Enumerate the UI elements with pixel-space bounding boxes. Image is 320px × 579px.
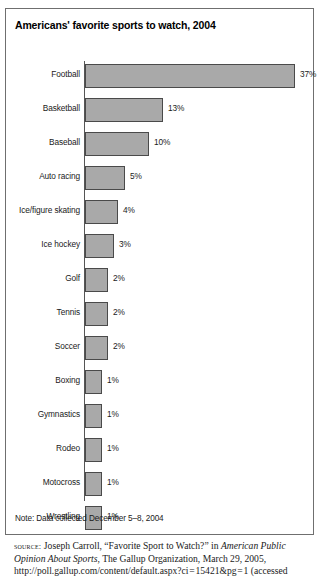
bar-row: Baseball 10%: [6, 129, 313, 160]
bar-row: Ice/figure skating 4%: [6, 197, 313, 228]
bar-rect: [85, 98, 163, 122]
bar-row: Golf 2%: [6, 265, 313, 296]
source-citation: source: Joseph Carroll, “Favorite Sport …: [14, 540, 310, 578]
bar-value-label: 4%: [123, 205, 135, 215]
bar-category-label: Basketball: [0, 103, 80, 113]
bar-value-label: 10%: [154, 137, 170, 147]
bar-value-label: 3%: [119, 239, 131, 249]
bar-value-label: 1%: [107, 409, 119, 419]
bar-rect: [85, 336, 108, 360]
bar-value-label: 13%: [168, 103, 184, 113]
bar-rect: [85, 438, 102, 462]
bar-rect: [85, 132, 149, 156]
bar-category-label: Football: [0, 69, 80, 79]
bar-row: Tennis 2%: [6, 299, 313, 330]
bar-category-label: Motocross: [0, 477, 80, 487]
bar-row: Soccer 2%: [6, 333, 313, 364]
bar-category-label: Gymnastics: [0, 409, 80, 419]
bar-category-label: Ice/figure skating: [0, 205, 80, 215]
bar-category-label: Golf: [0, 273, 80, 283]
chart-note: Note: Data collected December 5–8, 2004: [15, 514, 164, 523]
bar-value-label: 2%: [113, 273, 125, 283]
bar-value-label: 2%: [113, 307, 125, 317]
bar-value-label: 37%: [300, 69, 316, 79]
bar-category-label: Soccer: [0, 341, 80, 351]
bar-row: Rodeo 1%: [6, 435, 313, 466]
bar-value-label: 1%: [107, 443, 119, 453]
bar-rect: [85, 200, 118, 224]
bar-row: Ice hockey 3%: [6, 231, 313, 262]
bar-chart-plot-area: Football 37% Basketball 13% Baseball 10%…: [6, 61, 313, 506]
bar-category-label: Tennis: [0, 307, 80, 317]
bar-row: Boxing 1%: [6, 367, 313, 398]
bar-value-label: 1%: [107, 477, 119, 487]
bar-rect: [85, 472, 102, 496]
bar-row: Auto racing 5%: [6, 163, 313, 194]
bar-row: Basketball 13%: [6, 95, 313, 126]
source-italic-title-part2: Opinion About Sports: [14, 553, 98, 564]
bar-row: Football 37%: [6, 61, 313, 92]
bar-value-label: 1%: [107, 375, 119, 385]
bar-rect: [85, 166, 125, 190]
bar-row: Gymnastics 1%: [6, 401, 313, 432]
bar-rect: [85, 64, 295, 88]
chart-title: Americans' favorite sports to watch, 200…: [15, 19, 305, 32]
figure-frame: Americans' favorite sports to watch, 200…: [5, 8, 314, 535]
bar-category-label: Rodeo: [0, 443, 80, 453]
bar-category-label: Boxing: [0, 375, 80, 385]
bar-rect: [85, 234, 114, 258]
source-url-line: poll.gallup.com/content/default.aspx?ci …: [37, 565, 288, 576]
bar-rect: [85, 404, 102, 428]
bar-rect: [85, 268, 108, 292]
source-label: source:: [14, 541, 41, 551]
bar-category-label: Ice hockey: [0, 239, 80, 249]
bar-row: Motocross 1%: [6, 469, 313, 500]
bar-value-label: 5%: [130, 171, 142, 181]
bar-rect: [85, 302, 108, 326]
bar-value-label: 2%: [113, 341, 125, 351]
bar-rect: [85, 370, 102, 394]
bar-category-label: Baseball: [0, 137, 80, 147]
bar-category-label: Auto racing: [0, 171, 80, 181]
source-italic-title-part1: American Public: [221, 540, 286, 551]
source-text-part1: Joseph Carroll, “Favorite Sport to Watch…: [41, 540, 220, 551]
